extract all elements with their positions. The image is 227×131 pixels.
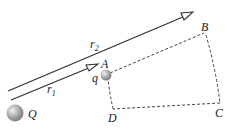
path-C-D [113, 103, 220, 109]
label-r2: r2 [90, 37, 99, 53]
label-Q: Q [28, 107, 37, 121]
r2-arrow [8, 12, 193, 91]
label-C: C [215, 106, 224, 120]
label-B: B [201, 20, 209, 34]
dashed-path [108, 33, 220, 109]
arc-D-A [108, 80, 113, 109]
charge-Q-sphere [7, 105, 24, 122]
arc-B-C [206, 35, 220, 103]
label-A: A [100, 57, 109, 71]
label-q: q [92, 71, 98, 85]
path-A-B [110, 33, 204, 73]
charge-q-sphere [101, 70, 112, 81]
diagram: r2 r1 A q B C D Q [0, 0, 227, 131]
label-D: D [107, 111, 117, 125]
label-r1: r1 [47, 82, 56, 98]
